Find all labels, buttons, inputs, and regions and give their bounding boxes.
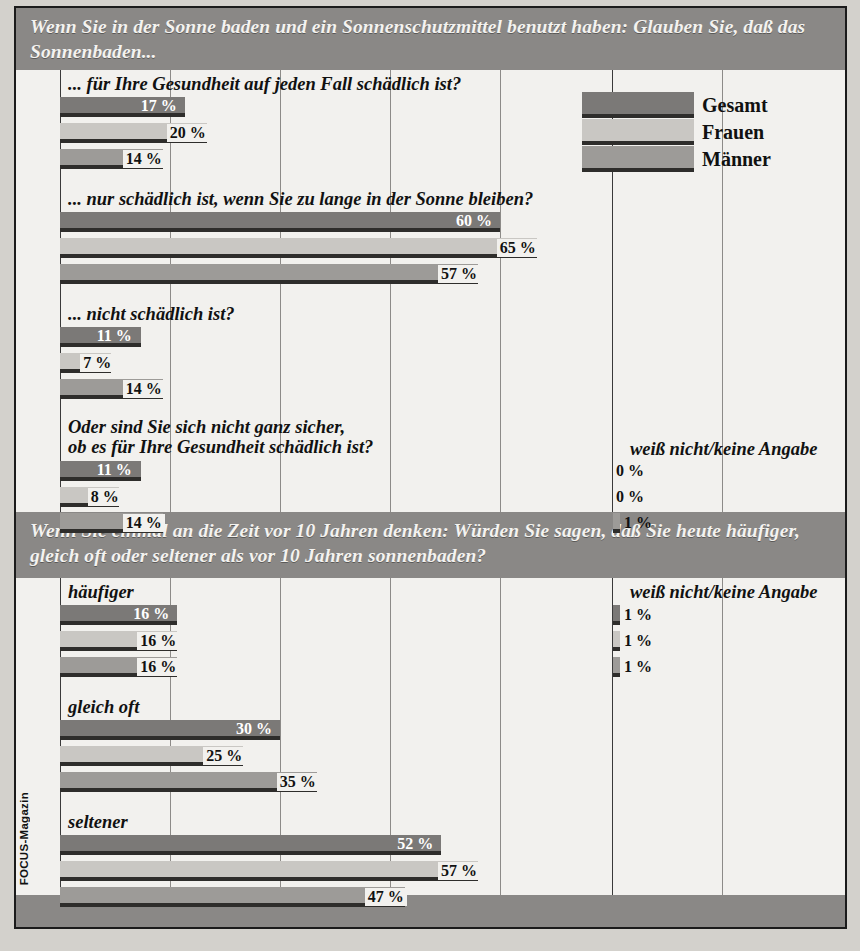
secondary-axis-label: weiß nicht/keine Angabe [630, 439, 817, 459]
gridline-60 [500, 70, 501, 512]
secondary-bar-frauen [613, 631, 620, 651]
legend-label-männer: Männer [702, 149, 771, 169]
panel-1-plot: ... für Ihre Gesundheit auf jeden Fall s… [16, 70, 845, 512]
secondary-value-label: 0 % [616, 463, 644, 479]
group-label: ... nur schädlich ist, wenn Sie zu lange… [68, 189, 533, 209]
bar-value-label: 30 % [236, 721, 272, 737]
bar-männer [60, 264, 478, 284]
bar-frauen [60, 238, 537, 258]
bar-value-label: 16 % [137, 632, 179, 650]
group-label: häufiger [68, 582, 134, 602]
panel-1-title: Wenn Sie in der Sonne baden und ein Sonn… [16, 8, 845, 70]
panel-question-1: Wenn Sie in der Sonne baden und ein Sonn… [16, 8, 845, 512]
bar-value-label: 57 % [438, 862, 480, 880]
secondary-axis-label: weiß nicht/keine Angabe [630, 582, 817, 602]
gridline-45 [390, 70, 391, 512]
bar-frauen [60, 861, 478, 881]
bar-value-label: 47 % [365, 888, 407, 906]
secondary-bar-männer [613, 657, 620, 677]
bar-value-label: 14 % [123, 380, 165, 398]
gridline-45 [390, 578, 391, 905]
secondary-value-label: 1 % [624, 659, 652, 675]
bar-value-label: 8 % [88, 488, 122, 506]
bar-gesamt [60, 835, 441, 855]
bar-value-label: 65 % [497, 239, 539, 257]
bar-value-label: 16 % [133, 606, 169, 622]
gridline-60 [500, 578, 501, 905]
group-label: Oder sind Sie sich nicht ganz sicher, ob… [68, 417, 373, 457]
legend-label-frauen: Frauen [702, 122, 764, 142]
bar-value-label: 11 % [97, 328, 132, 344]
legend-swatch-frauen [582, 119, 694, 145]
panel-question-2: Wenn Sie einmal an die Zeit vor 10 Jahre… [16, 512, 845, 927]
bar-value-label: 60 % [456, 213, 492, 229]
panel-2-plot: häufiger16 %16 %16 %weiß nicht/keine Ang… [16, 578, 845, 905]
gridline-30 [280, 578, 281, 905]
bar-männer [60, 887, 405, 907]
group-label: ... für Ihre Gesundheit auf jeden Fall s… [68, 74, 461, 94]
secondary-value-label: 1 % [624, 607, 652, 623]
bar-value-label: 25 % [203, 747, 245, 765]
bar-value-label: 14 % [123, 150, 165, 168]
gridline-right [722, 578, 723, 905]
secondary-axis [612, 578, 613, 905]
bar-value-label: 16 % [137, 658, 179, 676]
legend-swatch-gesamt [582, 92, 694, 118]
source-credit: FOCUS-Magazin [18, 792, 30, 885]
bar-value-label: 57 % [438, 265, 480, 283]
group-label: gleich oft [68, 697, 139, 717]
bar-value-label: 7 % [80, 354, 114, 372]
poster-page: Wenn Sie in der Sonne baden und ein Sonn… [0, 0, 860, 951]
bar-value-label: 14 % [123, 514, 165, 532]
legend-swatch-männer [582, 146, 694, 172]
bar-value-label: 17 % [141, 98, 177, 114]
secondary-value-label: 1 % [624, 633, 652, 649]
gridline-0 [60, 578, 61, 905]
secondary-value-label: 0 % [616, 489, 644, 505]
chart-frame: Wenn Sie in der Sonne baden und ein Sonn… [14, 6, 847, 929]
legend-label-gesamt: Gesamt [702, 95, 768, 115]
bar-value-label: 20 % [167, 124, 209, 142]
secondary-value-label: 1 % [624, 515, 652, 531]
secondary-bar-männer [613, 513, 620, 533]
bar-gesamt [60, 212, 500, 232]
bar-value-label: 35 % [277, 773, 319, 791]
group-label: ... nicht schädlich ist? [68, 304, 235, 324]
secondary-bar-gesamt [613, 605, 620, 625]
gridline-15 [170, 578, 171, 905]
bar-value-label: 52 % [397, 836, 433, 852]
group-label: seltener [68, 812, 128, 832]
bar-value-label: 11 % [97, 462, 132, 478]
